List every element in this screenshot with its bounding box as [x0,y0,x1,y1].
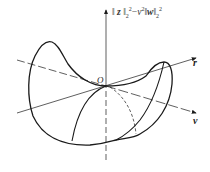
vertical-axis-label: ‖ z ‖22−ν2‖w‖22 [112,6,162,19]
origin-label: O [97,75,104,85]
subscript: 2 [156,13,159,19]
surface-outline [29,42,172,145]
norm-bar: ‖ [112,7,115,17]
superscript: 2 [159,6,162,12]
v-axis [106,86,196,113]
saddle-figure: O r v [0,0,210,172]
subscript: 2 [126,13,129,19]
var-z: z [117,7,121,17]
r-axis-label: r [193,57,197,68]
v-axis-label: v [193,115,198,126]
